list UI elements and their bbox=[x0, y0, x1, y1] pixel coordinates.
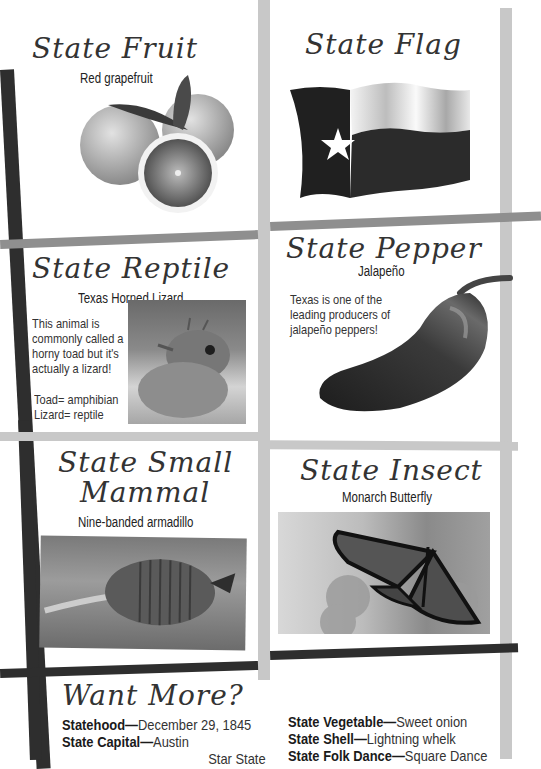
facts-list-left: Statehood—December 29, 1845 State Capita… bbox=[62, 716, 299, 767]
fact-state-shell: State Shell—Lightning whelk bbox=[288, 730, 487, 747]
panel-note: Lizard= reptile bbox=[34, 407, 136, 422]
panel-title: State Insect bbox=[300, 454, 483, 487]
fact-value: Sweet onion bbox=[396, 713, 467, 730]
fact-label: State Folk Dance bbox=[288, 747, 392, 764]
panel-title: State Pepper bbox=[286, 232, 482, 265]
fact-label: State Vegetable bbox=[288, 713, 383, 730]
fact-value: Austin bbox=[153, 733, 189, 750]
fact-value: December 29, 1845 bbox=[138, 716, 251, 733]
fact-state-vegetable: State Vegetable—Sweet onion bbox=[288, 713, 487, 730]
jalapeno-image bbox=[310, 268, 520, 418]
panel-subtitle: Monarch Butterfly bbox=[342, 489, 432, 505]
fact-separator: — bbox=[392, 747, 405, 764]
horizontal-bar-1-left bbox=[0, 230, 258, 249]
panel-description: This animal is commonly called a horny t… bbox=[32, 316, 126, 376]
panel-subtitle: Nine-banded armadillo bbox=[78, 514, 194, 530]
fact-value: Star State bbox=[208, 750, 265, 767]
fact-separator: — bbox=[354, 730, 367, 747]
panel-title: State Fruit bbox=[32, 32, 198, 65]
horizontal-bar-3-right bbox=[270, 643, 518, 660]
fact-separator: — bbox=[140, 733, 153, 750]
fact-label: State Capital bbox=[62, 733, 140, 750]
panel-title: State Reptile bbox=[32, 252, 230, 285]
fact-state-folk-dance: State Folk Dance—Square Dance bbox=[288, 747, 487, 764]
panel-note: Toad= amphibian bbox=[34, 392, 136, 407]
horned-lizard-image bbox=[128, 300, 246, 424]
center-vertical-bar bbox=[258, 0, 270, 680]
fact-label: State Shell bbox=[288, 730, 354, 747]
fact-partial: Star State bbox=[62, 750, 266, 767]
monarch-butterfly-image bbox=[278, 512, 490, 634]
fact-label: Statehood bbox=[62, 716, 125, 733]
want-more-title: Want More? bbox=[62, 679, 244, 712]
horizontal-bar-2-right bbox=[270, 440, 518, 451]
fact-value: Lightning whelk bbox=[367, 730, 456, 747]
panel-title: State Flag bbox=[305, 28, 462, 61]
panel-title-line-1: State Small bbox=[58, 446, 233, 479]
horizontal-bar-2-left bbox=[0, 432, 258, 441]
fact-separator: — bbox=[125, 716, 138, 733]
facts-list-right: State Vegetable—Sweet onion State Shell—… bbox=[288, 713, 520, 764]
armadillo-image bbox=[39, 536, 247, 651]
fact-separator: — bbox=[383, 713, 396, 730]
texas-flag-image bbox=[290, 80, 470, 200]
grapefruit-image bbox=[78, 75, 238, 215]
fact-value: Square Dance bbox=[405, 747, 487, 764]
fact-state-capital: State Capital—Austin bbox=[62, 733, 266, 750]
panel-title-line-2: Mammal bbox=[80, 476, 210, 509]
fact-statehood: Statehood—December 29, 1845 bbox=[62, 716, 266, 733]
